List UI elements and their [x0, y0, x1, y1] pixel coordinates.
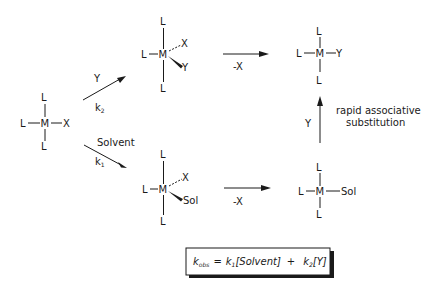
associative-substitution-arrow: Y rapid associative substitution	[304, 96, 421, 143]
lower-product-complex: L L M Sol L	[298, 162, 356, 220]
lower-int-ligand-top: L	[160, 149, 166, 160]
upper-reagent-label: Y	[93, 73, 101, 84]
upper-prod-ligand-bottom: L	[316, 75, 322, 86]
lower-elimination-arrow: -X	[224, 185, 271, 207]
upper-int-wedge-ligand: Y	[181, 62, 189, 73]
rate-law-box: kobs=k1[Solvent]+k2[Y]	[186, 248, 334, 278]
lower-reagent-label: Solvent	[97, 137, 135, 148]
lower-prod-metal: M	[316, 186, 325, 197]
upper-int-ligand-bottom: L	[160, 83, 166, 94]
lower-elimination-label: -X	[233, 196, 243, 207]
upper-path-arrow: Y k2	[83, 73, 126, 114]
lower-prod-ligand-right: Sol	[341, 186, 356, 197]
reactant-ligand-bottom: L	[41, 141, 47, 152]
upper-int-ligand-top: L	[160, 16, 166, 27]
conversion-description-line2: substitution	[346, 117, 405, 128]
reactant-ligand-right: X	[63, 118, 70, 129]
lower-intermediate-complex: L L M X Sol L	[142, 149, 198, 227]
upper-elimination-arrow: -X	[223, 51, 269, 72]
conversion-reagent-label: Y	[304, 118, 312, 129]
reactant-ligand-left: L	[20, 118, 26, 129]
lower-prod-ligand-top: L	[316, 162, 322, 173]
upper-elimination-label: -X	[233, 61, 243, 72]
upper-int-ligand-left: L	[141, 49, 147, 60]
upper-product-complex: L L M Y L	[296, 26, 343, 86]
lower-prod-ligand-bottom: L	[316, 209, 322, 220]
upper-int-metal: M	[159, 49, 168, 60]
k1-label: k1	[95, 156, 105, 168]
lower-int-metal: M	[159, 184, 168, 195]
wedge-bond	[168, 191, 183, 202]
rate-law-equation: kobs=k1[Solvent]+k2[Y]	[193, 256, 327, 268]
k2-label: k2	[95, 102, 105, 114]
reactant-complex: L L M X L	[20, 92, 70, 152]
reactant-metal: M	[41, 118, 50, 129]
upper-prod-ligand-left: L	[296, 48, 302, 59]
lower-int-ligand-bottom: L	[160, 216, 166, 227]
lower-prod-ligand-left: L	[298, 186, 304, 197]
reaction-scheme: L L M X L Y k2 Solvent k1 L L M X Y L	[0, 0, 446, 302]
upper-intermediate-complex: L L M X Y L	[141, 16, 189, 94]
reactant-ligand-top: L	[41, 92, 47, 103]
lower-int-wedge-ligand: Sol	[183, 195, 198, 206]
wedge-bond	[168, 56, 183, 69]
upper-prod-ligand-top: L	[316, 26, 322, 37]
lower-path-arrow: Solvent k1	[84, 137, 135, 168]
upper-prod-metal: M	[316, 48, 325, 59]
conversion-description-line1: rapid associative	[336, 105, 421, 116]
upper-prod-ligand-right: Y	[335, 48, 343, 59]
lower-int-ligand-left: L	[142, 184, 148, 195]
lower-int-dashed-ligand: X	[182, 172, 189, 183]
upper-int-dashed-ligand: X	[181, 38, 188, 49]
